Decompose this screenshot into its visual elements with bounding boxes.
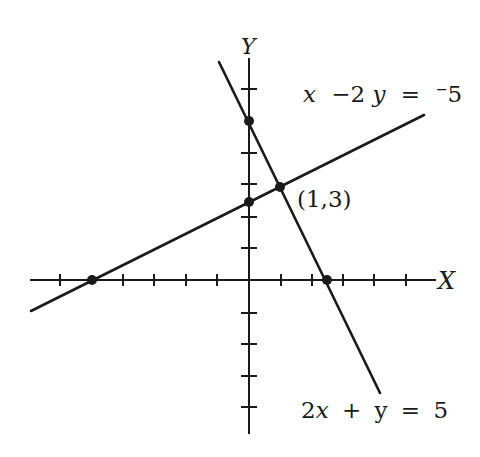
point-x-intercept-line2 xyxy=(322,275,332,285)
point-x-intercept-line1 xyxy=(87,275,97,285)
eq1-x: x xyxy=(303,81,316,107)
intersection-label: (1,3) xyxy=(297,186,352,212)
point-y-intercept-line1 xyxy=(244,197,254,207)
eq2-y: y xyxy=(374,397,388,423)
eq1-y: y xyxy=(372,81,387,107)
point-intersection xyxy=(275,182,285,192)
equation-label-line1: x −2 y = ⁻5 xyxy=(303,81,462,107)
x-axis-label: X xyxy=(436,267,456,295)
eq2-rhs: 5 xyxy=(433,397,448,423)
eq2-x: x xyxy=(316,397,329,423)
coordinate-graph: X Y x −2 y = ⁻5 (1,3) 2x + y = xyxy=(0,0,480,457)
eq2-coef: 2 xyxy=(301,397,316,423)
point-y-intercept-line2 xyxy=(244,116,254,126)
eq1-rhs: ⁻5 xyxy=(435,81,462,107)
eq1-minus-2: −2 xyxy=(331,81,365,107)
equation-label-line2: 2x + y = 5 xyxy=(301,397,448,423)
eq2-equals: = xyxy=(401,397,420,423)
eq2-plus: + xyxy=(342,397,361,423)
y-axis-label: Y xyxy=(241,34,258,59)
plotted-points xyxy=(87,116,332,285)
eq1-equals: = xyxy=(401,81,420,107)
